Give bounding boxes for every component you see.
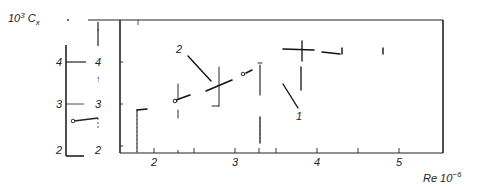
left-tick-label-4: 4: [56, 56, 62, 68]
x-tick-label-5: 5: [396, 156, 403, 168]
curve-label-2: 2: [175, 43, 182, 55]
small-arrow-mark: ↑: [96, 74, 101, 84]
dot-marker: [67, 19, 69, 21]
x-tick-label-3: 3: [232, 156, 239, 168]
chart: 103 Cx 4 3 2 4 3 2 ↑: [0, 0, 480, 187]
left-tick-label-3: 3: [56, 98, 63, 110]
plot-frame: [88, 20, 443, 153]
curve-label-1: 1: [296, 110, 302, 122]
mid-tick-label-2: 2: [94, 144, 101, 156]
left-tick-label-2: 2: [55, 144, 62, 156]
mid-tick-label-3: 3: [95, 98, 102, 110]
x-axis-title: Re 10−6: [423, 170, 462, 184]
x-axis-ticks: [154, 148, 399, 153]
mid-tick-label-4: 4: [95, 56, 101, 68]
x-tick-label-2: 2: [150, 156, 157, 168]
x-tick-label-4: 4: [314, 156, 320, 168]
y-axis-title: 103 Cx: [8, 11, 41, 27]
data-series-1: [137, 41, 383, 152]
left-auxiliary-scale: [66, 22, 99, 156]
